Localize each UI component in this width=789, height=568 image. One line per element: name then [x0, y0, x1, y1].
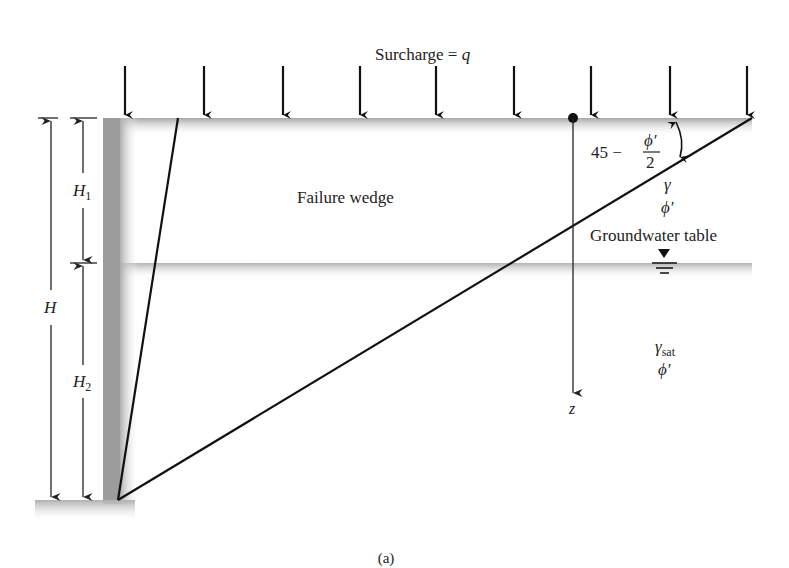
dimension-h1-label: H1 — [72, 181, 91, 203]
saturated-unit-weight-label: γsat — [655, 337, 676, 359]
angle-fraction-denominator: 2 — [646, 153, 655, 172]
lower-friction-angle-label: ϕ′ — [658, 360, 671, 379]
failure-plane — [118, 118, 752, 500]
unit-weight-label: γ — [664, 175, 672, 194]
retaining-wall-face — [103, 118, 120, 504]
figure-caption: (a) — [378, 550, 395, 567]
dimension-h2-label: H2 — [72, 372, 91, 394]
failure-wedge-label: Failure wedge — [297, 188, 394, 207]
groundwater-band — [120, 263, 752, 279]
surcharge-arrows — [125, 66, 747, 115]
retaining-wall-diagram: Surcharge = q z 45 − ϕ′ 2 γ ϕ′ Failure w… — [0, 0, 789, 568]
friction-angle-label: ϕ′ — [661, 198, 674, 217]
groundwater-label: Groundwater table — [590, 226, 717, 245]
depth-axis-label: z — [568, 400, 576, 417]
angle-label: 45 − — [591, 143, 622, 162]
base-ground — [35, 500, 135, 520]
angle-fraction-numerator: ϕ′ — [644, 131, 657, 150]
dimension-h-label: H — [43, 298, 58, 317]
surcharge-label: Surcharge = q — [375, 45, 471, 64]
